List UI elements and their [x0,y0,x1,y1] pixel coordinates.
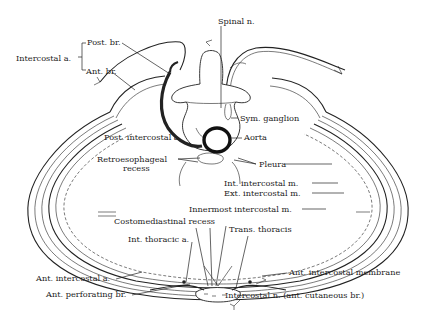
label-trans-thoracis: Trans. thoracis [229,224,292,234]
label-post-intercostal-a: Post. intercostal a. [104,132,181,142]
label-ant-perforating-br: Ant. perforating br. [45,289,126,299]
intercostal-bracket [78,43,86,70]
label-ant-br: Ant. br. [85,66,117,76]
leader-retroesophageal [178,158,200,162]
label-intercostal-a: Intercostal a. [16,53,71,63]
label-costomediastinal-recess: Costomediastinal recess [114,216,215,226]
leader-int-thoracic [186,242,192,282]
label-int-intercostal-m: Int. intercostal m. [224,178,298,188]
thoracic-cross-section-diagram: Spinal n. Intercostal a. Post. br. Ant. … [0,0,435,321]
label-intercostal-n-ant-cutaneous: Intercostal n. (ant. cutaneous br.) [225,290,364,300]
leader-costomediastinal [196,228,212,286]
label-spinal-n: Spinal n. [218,16,255,26]
aorta [204,128,230,152]
leader-post-br [122,43,170,74]
label-innermost-intercostal-m: Innermost intercostal m. [189,204,292,214]
label-ant-intercostal-membrane: Ant. intercostal membrane [288,267,400,277]
label-retroesophageal-2: recess [123,163,150,173]
label-post-br: Post. br. [87,37,121,47]
leader-ant-intercostal-a [116,272,142,279]
label-ext-intercostal-m: Ext. intercostal m. [224,188,301,198]
label-ant-intercostal-a: Ant. intercostal a. [35,273,110,283]
label-sym-ganglion: Sym. ganglion [240,113,300,123]
label-pleura: Pleura [259,159,286,169]
leader-ant-br [112,72,135,90]
label-int-thoracic-a: Int. thoracic a. [128,234,189,244]
label-aorta: Aorta [243,132,267,142]
